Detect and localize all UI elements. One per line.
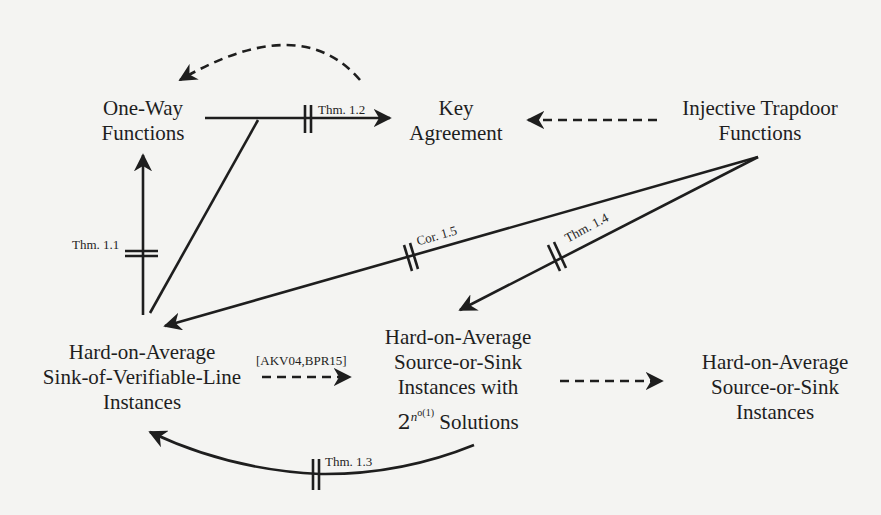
edge-itf-to-sossub xyxy=(460,157,758,310)
node-one-way-functions: One-WayFunctions xyxy=(102,96,185,146)
label-thm-1-2: Thm. 1.2 xyxy=(318,102,365,118)
label-thm-1-1: Thm. 1.1 xyxy=(72,237,119,253)
node-key-agreement: KeyAgreement xyxy=(409,96,502,146)
edge-owf-sovl-line xyxy=(150,120,258,313)
edge-ka-to-owf xyxy=(180,45,360,80)
node-source-or-sink: Hard-on-AverageSource-or-SinkInstances xyxy=(702,350,849,425)
label-thm-1-3: Thm. 1.3 xyxy=(325,454,372,470)
edge-itf-to-sovl xyxy=(165,157,758,326)
diagram-canvas xyxy=(0,0,881,515)
node-injective-trapdoor-functions: Injective TrapdoorFunctions xyxy=(682,96,838,146)
label-akv-bpr: [AKV04,BPR15] xyxy=(256,353,347,369)
node-source-or-sink-subexp: Hard-on-AverageSource-or-SinkInstances w… xyxy=(385,325,532,435)
node-sink-of-verifiable-line: Hard-on-AverageSink-of-Verifiable-LineIn… xyxy=(43,340,241,415)
